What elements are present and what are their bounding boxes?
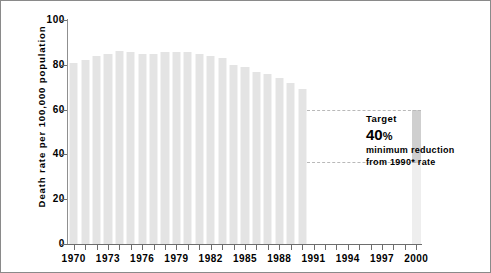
y-axis-tick-mark: [61, 244, 67, 245]
bar: [252, 72, 261, 244]
x-axis-tick-mark: [234, 245, 235, 250]
baseline-bar-1990: [298, 110, 307, 244]
bar: [115, 51, 124, 244]
target-percent-number: 40: [366, 126, 383, 143]
bar: [103, 54, 112, 244]
x-axis-tick-mark: [245, 245, 246, 250]
x-axis-tick-mark: [314, 245, 315, 250]
x-axis-tick-label: 1997: [370, 253, 394, 264]
target-annotation-value: 40%: [366, 126, 486, 143]
x-axis-tick-label: 1985: [233, 253, 257, 264]
x-axis-tick-mark: [154, 245, 155, 250]
y-axis-tick-mark: [61, 20, 67, 21]
bar: [149, 54, 158, 244]
y-axis-tick-mark: [61, 199, 67, 200]
x-axis-tick-mark: [325, 245, 326, 250]
x-axis-tick-label: 1979: [164, 253, 188, 264]
x-axis-tick-mark: [279, 245, 280, 250]
x-axis-tick-mark: [393, 245, 394, 250]
bar: [69, 63, 78, 244]
x-axis-tick-mark: [268, 245, 269, 250]
bar: [206, 56, 215, 244]
x-axis-tick-mark: [211, 245, 212, 250]
x-axis-tick-mark: [222, 245, 223, 250]
bar: [229, 65, 238, 244]
x-axis-tick-mark: [199, 245, 200, 250]
bar: [160, 52, 169, 244]
x-axis-tick-label: 1988: [267, 253, 291, 264]
bar: [172, 52, 181, 244]
x-axis-tick-mark: [85, 245, 86, 250]
y-axis-tick-mark: [61, 65, 67, 66]
x-axis-tick-label: 1976: [130, 253, 154, 264]
y-axis-tick-label: 40: [19, 149, 65, 158]
x-axis-tick-mark: [74, 245, 75, 250]
x-axis-tick-label: 1970: [62, 253, 86, 264]
x-axis-tick-mark: [359, 245, 360, 250]
x-axis-tick-mark: [142, 245, 143, 250]
bar: [275, 78, 284, 244]
bar: [263, 74, 272, 244]
y-axis-tick-label: 60: [19, 105, 65, 114]
x-axis-tick-mark: [97, 245, 98, 250]
target-annotation-detail-2: from 1990* rate: [366, 157, 486, 167]
bar: [183, 52, 192, 244]
x-axis-tick-label: 1994: [336, 253, 360, 264]
x-axis-tick-mark: [108, 245, 109, 250]
bar: [81, 60, 90, 244]
target-annotation: Target 40% minimum reduction from 1990* …: [366, 113, 486, 167]
bar: [218, 58, 227, 244]
x-axis-tick-mark: [336, 245, 337, 250]
x-axis-tick-label: 2000: [404, 253, 428, 264]
x-axis-tick-mark: [256, 245, 257, 250]
bar: [240, 67, 249, 244]
x-axis-tick-mark: [302, 245, 303, 250]
target-annotation-title: Target: [366, 113, 486, 124]
x-axis-tick-label: 1982: [199, 253, 223, 264]
percent-sign: %: [383, 130, 393, 142]
y-axis-tick-mark: [61, 110, 67, 111]
x-axis-tick-label: 1973: [96, 253, 120, 264]
y-axis-tick-label: 100: [19, 15, 65, 24]
bar: [126, 52, 135, 244]
y-axis-tick-label: 20: [19, 194, 65, 203]
x-axis-tick-mark: [188, 245, 189, 250]
target-annotation-detail-1: minimum reduction: [366, 145, 486, 155]
x-axis-tick-mark: [291, 245, 292, 250]
y-axis-tick-mark: [61, 154, 67, 155]
x-axis-tick-mark: [131, 245, 132, 250]
y-axis-ticks: 100806040200: [9, 1, 59, 273]
bar: [286, 83, 295, 244]
bar: [138, 54, 147, 244]
y-axis-tick-label: 80: [19, 60, 65, 69]
x-axis-tick-mark: [416, 245, 417, 250]
x-axis-tick-mark: [405, 245, 406, 250]
x-axis-tick-mark: [382, 245, 383, 250]
x-axis-tick-mark: [348, 245, 349, 250]
x-axis-tick-mark: [165, 245, 166, 250]
x-axis-tick-mark: [119, 245, 120, 250]
x-axis-tick-label: 1991: [301, 253, 325, 264]
target-bar-lower-2000: [412, 163, 421, 244]
x-axis-tick-mark: [371, 245, 372, 250]
x-axis-tick-mark: [176, 245, 177, 250]
bar: [92, 56, 101, 244]
y-axis-tick-label: 0: [19, 239, 65, 248]
chart-frame: Death rate per 100,000 population 100806…: [0, 0, 491, 273]
bar: [195, 54, 204, 244]
